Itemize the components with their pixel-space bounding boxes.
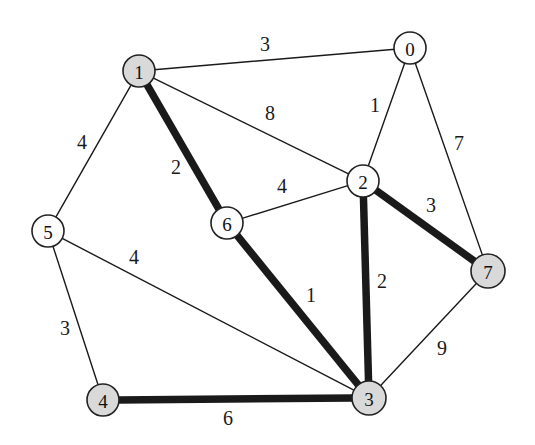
graph-edge-5-3 bbox=[61, 238, 354, 391]
edge-weight-2-3: 2 bbox=[377, 270, 387, 292]
graph-node-5[interactable]: 5 bbox=[32, 215, 64, 247]
node-label-7: 7 bbox=[483, 262, 493, 283]
edge-weight-4-3: 6 bbox=[223, 407, 233, 429]
edge-weight-0-2: 1 bbox=[370, 94, 380, 116]
edge-weight-1-5: 4 bbox=[77, 131, 87, 153]
node-label-4: 4 bbox=[98, 391, 108, 412]
edge-weight-1-2: 8 bbox=[265, 102, 275, 124]
node-label-1: 1 bbox=[134, 62, 144, 83]
node-label-0: 0 bbox=[405, 39, 415, 60]
graph-edge-4-3 bbox=[118, 398, 353, 400]
edge-weight-0-7: 7 bbox=[454, 132, 464, 154]
nodes-layer: 01234567 bbox=[32, 32, 505, 416]
graph-edge-1-5 bbox=[55, 84, 131, 218]
graph-node-2[interactable]: 2 bbox=[347, 165, 379, 197]
graph-figure: 01234567 34281743214369 bbox=[0, 0, 535, 445]
edge-weight-2-6: 4 bbox=[277, 175, 287, 197]
graph-node-3[interactable]: 3 bbox=[352, 381, 386, 415]
graph-edge-2-6 bbox=[241, 185, 348, 218]
graph-edge-1-2 bbox=[152, 78, 349, 175]
edge-weight-5-4: 3 bbox=[60, 317, 70, 339]
graph-edge-2-3 bbox=[363, 196, 368, 382]
edge-weight-2-7: 3 bbox=[426, 194, 436, 216]
edge-weight-6-3: 1 bbox=[306, 284, 316, 306]
graph-node-0[interactable]: 0 bbox=[394, 32, 426, 64]
edge-labels-layer: 34281743214369 bbox=[60, 33, 464, 429]
graph-edge-5-4 bbox=[53, 245, 99, 385]
node-label-6: 6 bbox=[222, 214, 232, 235]
graph-edge-7-3 bbox=[380, 283, 477, 387]
graph-node-7[interactable]: 7 bbox=[471, 254, 505, 288]
graph-edge-1-0 bbox=[154, 49, 395, 69]
graph-edge-6-3 bbox=[236, 235, 358, 386]
edge-weight-5-3: 4 bbox=[129, 246, 139, 268]
graph-node-6[interactable]: 6 bbox=[211, 207, 243, 239]
graph-node-1[interactable]: 1 bbox=[123, 55, 155, 87]
edge-weight-7-3: 9 bbox=[437, 337, 447, 359]
edge-weight-1-0: 3 bbox=[260, 33, 270, 55]
node-label-3: 3 bbox=[364, 389, 374, 410]
node-label-5: 5 bbox=[43, 222, 53, 243]
edge-weight-1-6: 2 bbox=[171, 156, 181, 178]
node-label-2: 2 bbox=[358, 172, 368, 193]
graph-node-4[interactable]: 4 bbox=[87, 384, 119, 416]
graph-canvas: 01234567 34281743214369 bbox=[0, 0, 535, 445]
graph-edge-1-6 bbox=[147, 84, 220, 210]
